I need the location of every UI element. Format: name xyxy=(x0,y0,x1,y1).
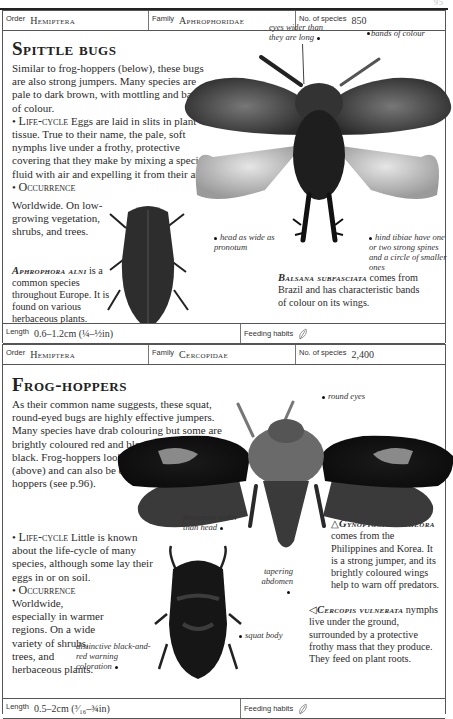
gynopygoplax-theora-image xyxy=(118,396,453,556)
length-cell: Length 0.5–2cm (³⁄₁₆–¾in) xyxy=(3,699,241,718)
order-label: Order xyxy=(6,348,25,357)
feeding-cell: Feeding habits xyxy=(241,324,445,343)
species-note-cercopis: ◁Cercopis vulnerata nymphs live under th… xyxy=(309,604,439,665)
length-label: Length xyxy=(6,702,29,711)
annotation-warning-coloration: distinctive black-and-red warning colora… xyxy=(76,641,151,671)
entry-title: Frog-hoppers xyxy=(12,374,127,396)
occurrence-heading: Occurrence xyxy=(19,583,76,597)
length-label: Length xyxy=(6,327,29,336)
species-count-value: 850 xyxy=(352,15,367,26)
species-count-label: No. of species xyxy=(299,348,347,357)
annotation-round-eyes: round eyes xyxy=(322,391,402,401)
order-cell: Order Hemiptera xyxy=(3,345,149,364)
annotation-bands: bands of colour xyxy=(371,28,431,38)
feeding-cell: Feeding habits xyxy=(241,699,445,718)
classification-bar: Order Hemiptera Family Cercopidae No. of… xyxy=(3,344,445,365)
species-note-aphrophora: Aphrophora alni is a common species thro… xyxy=(12,265,112,325)
page-number: 95 xyxy=(434,0,444,7)
order-value: Hemiptera xyxy=(30,349,75,360)
order-cell: Order Hemiptera xyxy=(3,11,149,30)
family-label: Family xyxy=(152,348,174,357)
annotation-eyes: eyes wider than they are long xyxy=(253,22,323,42)
leaf-icon xyxy=(298,328,308,340)
lifecycle-heading: Life-cycle xyxy=(19,114,69,128)
cercopis-vulnerata-image xyxy=(153,544,243,684)
length-value: 0.6–1.2cm (¼–½in) xyxy=(34,328,113,339)
length-feeding-bar: Length 0.6–1.2cm (¼–½in) Feeding habits xyxy=(3,323,445,344)
family-label: Family xyxy=(152,14,174,23)
length-value: 0.5–2cm (³⁄₁₆–¾in) xyxy=(34,703,110,714)
feeding-label: Feeding habits xyxy=(244,704,293,713)
occurrence-heading: Occurrence xyxy=(19,180,76,194)
length-feeding-bar: Length 0.5–2cm (³⁄₁₆–¾in) Feeding habits xyxy=(3,698,445,719)
order-label: Order xyxy=(6,14,25,23)
feeding-label: Feeding habits xyxy=(244,329,293,338)
order-value: Hemiptera xyxy=(30,15,75,26)
annotation-head: head as wide as pronotum xyxy=(214,232,284,252)
family-cell: Family Cercopidae xyxy=(149,345,296,364)
entry-spittle-bugs: Order Hemiptera Family Aphrophoridae No.… xyxy=(2,10,446,343)
species-note-balsana: Balsana subfasciata comes from Brazil an… xyxy=(278,272,428,309)
entry-title: Spittle bugs xyxy=(12,38,116,60)
occurrence-text: Worldwide. On low-growing vegetation, sh… xyxy=(12,199,104,239)
annotation-hind-tibiae: hind tibiae have one or two strong spine… xyxy=(369,232,447,272)
entry-frog-hoppers: Order Hemiptera Family Cercopidae No. of… xyxy=(2,344,446,714)
aphrophora-alni-image xyxy=(108,200,188,335)
family-value: Cercopidae xyxy=(179,349,228,360)
balsana-subfasciata-image xyxy=(183,45,453,245)
annotation-squat-body: squat body xyxy=(239,630,299,640)
leaf-icon xyxy=(298,703,308,715)
length-cell: Length 0.6–1.2cm (¼–½in) xyxy=(3,324,241,343)
species-count-cell: No. of species 2,400 xyxy=(296,345,445,364)
annotation-tapering-abdomen: tapering abdomen xyxy=(253,566,293,596)
lifecycle-heading: Life-cycle xyxy=(19,530,69,544)
occurrence-heading-line: • Occurrence xyxy=(12,584,162,597)
family-value: Aphrophoridae xyxy=(179,15,244,26)
species-count-value: 2,400 xyxy=(352,349,375,360)
annotation-pronotum: pronotum wider than head xyxy=(183,512,253,532)
